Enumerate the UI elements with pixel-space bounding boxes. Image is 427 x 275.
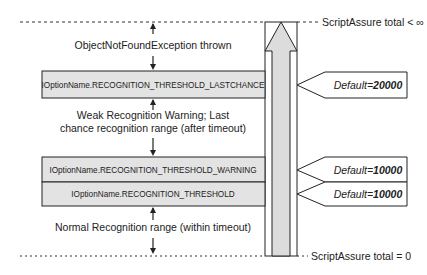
svg-text:ObjectNotFoundException thrown: ObjectNotFoundException thrown bbox=[74, 39, 231, 51]
svg-text:chance recognition range (afte: chance recognition range (after timeout) bbox=[60, 122, 246, 134]
threshold-warning: IOptionName.RECOGNITION_THRESHOLD_WARNIN… bbox=[42, 157, 265, 182]
svg-text:Normal Recognition range (with: Normal Recognition range (within timeout… bbox=[55, 221, 251, 233]
default-callout-lastchance: Default=20000 bbox=[297, 72, 407, 98]
region-normal: Normal Recognition range (within timeout… bbox=[55, 207, 251, 254]
bottom-boundary-label: ScriptAssure total = 0 bbox=[311, 250, 411, 262]
arrow-up-icon bbox=[150, 23, 156, 29]
svg-text:Default=10000: Default=10000 bbox=[334, 188, 403, 200]
arrow-down-icon bbox=[150, 150, 156, 156]
svg-text:Weak Recognition Warning; Last: Weak Recognition Warning; Last bbox=[77, 109, 229, 121]
svg-text:IOptionName.RECOGNITION_THRESH: IOptionName.RECOGNITION_THRESHOLD_LASTCH… bbox=[42, 81, 265, 90]
default-callout-normal: Default=10000 bbox=[297, 182, 407, 206]
svg-text:IOptionName.RECOGNITION_THRESH: IOptionName.RECOGNITION_THRESHOLD_WARNIN… bbox=[49, 166, 256, 175]
arrow-up-icon bbox=[150, 207, 156, 213]
svg-text:Default=10000: Default=10000 bbox=[334, 164, 403, 176]
region-weak: Weak Recognition Warning; Last chance re… bbox=[60, 99, 246, 156]
threshold-diagram: ScriptAssure total < ∞ ScriptAssure tota… bbox=[0, 0, 427, 275]
svg-text:Default=20000: Default=20000 bbox=[334, 79, 403, 91]
top-boundary-label: ScriptAssure total < ∞ bbox=[322, 16, 424, 28]
svg-text:IOptionName.RECOGNITION_THRESH: IOptionName.RECOGNITION_THRESHOLD bbox=[71, 190, 234, 199]
arrow-down-icon bbox=[150, 248, 156, 254]
arrow-down-icon bbox=[150, 64, 156, 70]
threshold-normal: IOptionName.RECOGNITION_THRESHOLD bbox=[42, 182, 265, 206]
default-callout-warning: Default=10000 bbox=[297, 157, 407, 182]
region-exception: ObjectNotFoundException thrown bbox=[74, 23, 231, 70]
arrow-up-icon bbox=[150, 99, 156, 105]
threshold-lastchance: IOptionName.RECOGNITION_THRESHOLD_LASTCH… bbox=[42, 71, 265, 98]
